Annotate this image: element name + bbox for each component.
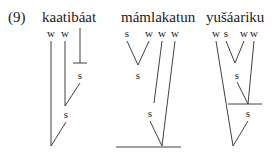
weak-node: w bbox=[171, 27, 179, 39]
weak-node: w bbox=[47, 27, 55, 39]
tree-word-label: yušáariku bbox=[206, 9, 264, 26]
tree-branch bbox=[150, 121, 162, 146]
weak-node: w bbox=[250, 27, 258, 39]
weak-node: w bbox=[61, 27, 69, 39]
tree-word-label: kaatibáat bbox=[42, 9, 96, 26]
tree-branch bbox=[65, 83, 80, 106]
tree-branch bbox=[233, 121, 248, 146]
prosodic-tree-diagram: (9) kaatibáatwwssmámlakatunswwwssyušáari… bbox=[0, 0, 278, 159]
tree-branch bbox=[127, 41, 138, 65]
tree-branch bbox=[51, 122, 66, 146]
weak-node: w bbox=[212, 27, 220, 39]
tree-branch bbox=[235, 41, 244, 63]
tree-branch bbox=[237, 82, 248, 104]
strong-node: s bbox=[125, 27, 129, 39]
strong-node: s bbox=[136, 69, 140, 81]
tree-branch bbox=[248, 41, 254, 104]
tree-branch bbox=[154, 41, 162, 103]
tree-branch bbox=[162, 41, 175, 146]
tree-word-label: mámlakatun bbox=[121, 9, 195, 26]
tree-branch bbox=[216, 41, 233, 146]
strong-node: s bbox=[224, 27, 228, 39]
strong-node: s bbox=[148, 107, 152, 119]
weak-node: w bbox=[240, 27, 248, 39]
weak-node: w bbox=[145, 27, 153, 39]
strong-node: s bbox=[235, 69, 239, 81]
weak-node: w bbox=[158, 27, 166, 39]
tree-branch bbox=[138, 41, 149, 65]
strong-node: s bbox=[78, 69, 82, 81]
strong-node: s bbox=[246, 107, 250, 119]
strong-node: s bbox=[64, 108, 68, 120]
tree-branch bbox=[226, 41, 235, 63]
